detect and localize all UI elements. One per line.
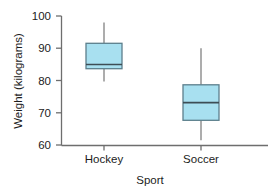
y-tick-label-100: 100 [32, 10, 51, 22]
y-tick-label-90: 90 [38, 42, 51, 54]
y-tick-label-80: 80 [38, 75, 51, 87]
boxplot-chart: 100 90 80 70 60 Weight (kilograms) Hocke… [0, 0, 271, 193]
x-category-label-soccer: Soccer [183, 153, 219, 165]
y-axis: 100 90 80 70 60 Weight (kilograms) [12, 10, 62, 151]
x-axis: Hockey Soccer Sport [62, 146, 269, 187]
box-hockey [86, 23, 122, 82]
y-tick-label-60: 60 [38, 139, 51, 151]
y-tick-label-70: 70 [38, 107, 51, 119]
box-soccer [183, 48, 219, 140]
x-axis-title: Sport [136, 174, 164, 186]
boxplot-canvas: 100 90 80 70 60 Weight (kilograms) Hocke… [0, 0, 271, 193]
x-category-label-hockey: Hockey [85, 153, 124, 165]
y-axis-title: Weight (kilograms) [12, 33, 24, 129]
